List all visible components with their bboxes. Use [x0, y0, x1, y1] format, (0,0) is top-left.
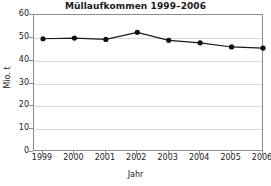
y-tick-label: 20: [3, 100, 29, 109]
y-tick-label: 50: [3, 32, 29, 41]
x-tick-mark: [168, 151, 169, 155]
x-tick-mark: [262, 151, 263, 155]
data-series-line: [34, 15, 264, 152]
x-tick-mark: [136, 151, 137, 155]
x-tick-mark: [231, 151, 232, 155]
x-tick-mark: [42, 151, 43, 155]
data-point: [40, 36, 45, 41]
y-tick-label: 40: [3, 55, 29, 64]
x-tick-mark: [105, 151, 106, 155]
y-tick-label: 30: [3, 78, 29, 87]
x-axis-label: Jahr: [0, 170, 271, 179]
y-tick-label: 60: [3, 9, 29, 18]
data-point: [229, 44, 234, 49]
data-point: [103, 37, 108, 42]
series-markers: [40, 30, 265, 51]
y-tick-mark: [29, 151, 33, 152]
plot-area: [33, 14, 263, 151]
x-tick-mark: [199, 151, 200, 155]
data-point: [72, 35, 77, 40]
x-tick-mark: [73, 151, 74, 155]
data-point: [260, 46, 265, 51]
data-point: [135, 30, 140, 35]
data-point: [166, 38, 171, 43]
chart-container: Müllaufkommen 1999–2006 Mio. t 010203040…: [0, 0, 271, 186]
y-tick-label: 10: [3, 123, 29, 132]
x-tick-label: 2006: [245, 153, 271, 162]
data-point: [198, 40, 203, 45]
